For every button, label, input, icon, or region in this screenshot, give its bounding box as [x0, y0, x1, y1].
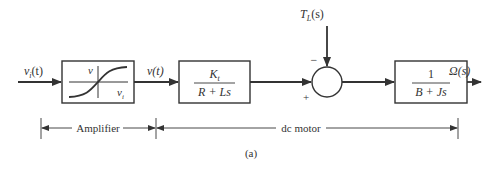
motor-bracket-label: dc motor: [281, 122, 321, 134]
amplifier-output-signal: v(t): [134, 64, 178, 82]
minus-sign: −: [311, 53, 318, 67]
summing-circle: [312, 67, 342, 97]
figure-caption: (a): [245, 147, 258, 160]
mechanical-numerator: 1: [428, 67, 434, 81]
disturbance-label: TL(s): [300, 7, 324, 23]
summing-junction: − +: [303, 53, 342, 103]
plus-sign: +: [303, 91, 309, 103]
mechanical-denominator: B + Js: [415, 85, 447, 99]
brackets: Amplifier dc motor: [41, 118, 458, 139]
amplifier-y-label: v: [88, 64, 93, 76]
amplifier-block: v vi: [62, 61, 134, 103]
motor-block-diagram: vi(t) v vi v(t) Kt R + Ls TL(s) − + 1: [0, 0, 497, 184]
input-signal: vi(t): [18, 64, 61, 82]
input-label: vi(t): [24, 64, 43, 80]
amplifier-output-label: v(t): [147, 64, 164, 78]
output-label: Ω(s): [449, 64, 470, 78]
electrical-block: Kt R + Ls: [179, 61, 250, 103]
amplifier-bracket-label: Amplifier: [76, 122, 120, 134]
electrical-denominator: R + Ls: [197, 85, 231, 99]
